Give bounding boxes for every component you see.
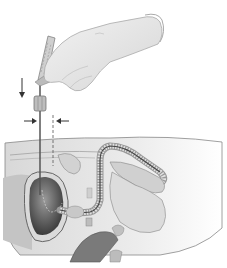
gloved-hand [44,14,164,91]
bladder [24,172,68,242]
down-arrow-icon [19,78,25,98]
right-arrow-icon [24,118,37,124]
left-arrow-icon [56,118,69,124]
illustration-canvas [0,0,227,268]
suprapubic-catheter-illustration [0,0,227,268]
